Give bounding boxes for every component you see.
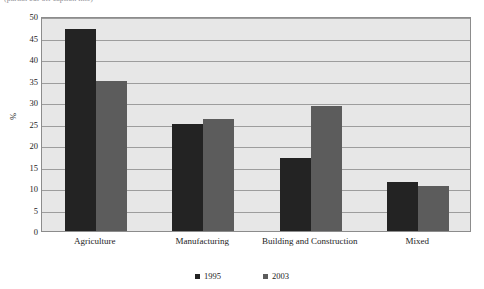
y-axis-tick-35: 35 <box>18 77 38 86</box>
y-axis-tick-25: 25 <box>18 120 38 129</box>
bar-2003-mixed <box>418 186 449 231</box>
legend-swatch-icon <box>263 274 268 279</box>
x-axis-tick-labels: AgricultureManufacturingBuilding and Con… <box>41 236 471 268</box>
gridline <box>42 40 470 41</box>
y-axis-title: % <box>9 106 18 128</box>
y-axis-tick-45: 45 <box>18 34 38 43</box>
y-axis-tick-40: 40 <box>18 56 38 65</box>
y-axis-tick-30: 30 <box>18 99 38 108</box>
y-axis-tick-20: 20 <box>18 142 38 151</box>
bar-2003-building-and-construction <box>311 106 342 231</box>
legend-label: 2003 <box>272 271 289 281</box>
bar-1995-mixed <box>387 182 418 231</box>
bar-1995-agriculture <box>65 29 96 231</box>
y-axis-tick-10: 10 <box>18 185 38 194</box>
x-axis-tick-label: Mixed <box>362 236 472 247</box>
x-axis-tick-label: Agriculture <box>40 236 150 247</box>
bar-2003-agriculture <box>96 81 127 232</box>
x-axis-tick-label: Building and Construction <box>255 236 365 247</box>
gridline <box>42 18 470 19</box>
bar-chart: % 05101520253035404550 AgricultureManufa… <box>0 0 484 289</box>
y-axis-tick-15: 15 <box>18 163 38 172</box>
y-axis-tick-labels: 05101520253035404550 <box>18 17 38 232</box>
bar-1995-manufacturing <box>172 124 203 232</box>
legend-item-1995: 1995 <box>195 271 221 281</box>
plot-area <box>41 17 471 232</box>
legend-label: 1995 <box>204 271 221 281</box>
x-axis-tick-label: Manufacturing <box>147 236 257 247</box>
chart-legend: 19952003 <box>0 268 484 284</box>
legend-item-2003: 2003 <box>263 271 289 281</box>
y-axis-tick-5: 5 <box>18 206 38 215</box>
gridline <box>42 61 470 62</box>
bar-2003-manufacturing <box>203 119 234 231</box>
y-axis-tick-0: 0 <box>18 228 38 237</box>
bar-1995-building-and-construction <box>280 158 311 231</box>
legend-swatch-icon <box>195 274 200 279</box>
y-axis-tick-50: 50 <box>18 13 38 22</box>
